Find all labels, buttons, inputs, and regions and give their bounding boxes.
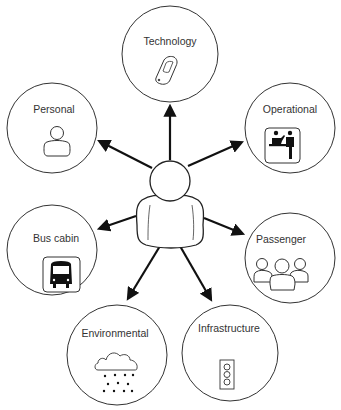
arrow-to-operational — [188, 143, 240, 166]
node-personal: Personal — [7, 83, 97, 173]
central-person-icon — [137, 161, 204, 248]
ticket-counter-icon — [265, 128, 300, 163]
bus-icon — [43, 257, 80, 292]
node-label: Environmental — [81, 327, 148, 339]
node-label: Personal — [33, 103, 74, 115]
node-label: Operational — [263, 103, 317, 115]
node-passenger: Passenger — [245, 213, 335, 303]
node-infrastructure: Infrastructure — [182, 305, 278, 401]
arrow-to-infrastructure — [180, 246, 210, 298]
traffic-light-icon — [220, 360, 234, 389]
diagram-canvas: Technology Personal Operational Bus — [0, 0, 341, 410]
node-label: Technology — [143, 35, 197, 47]
arrow-to-bus-cabin — [101, 216, 136, 228]
node-label: Bus cabin — [33, 232, 79, 244]
node-label: Passenger — [256, 233, 307, 245]
node-label: Infrastructure — [198, 322, 260, 334]
node-environmental: Environmental — [67, 305, 167, 405]
node-operational: Operational — [245, 83, 335, 173]
node-bus-cabin: Bus cabin — [7, 205, 97, 295]
arrow-to-passenger — [204, 218, 241, 233]
node-technology: Technology — [122, 6, 218, 102]
arrow-to-environmental — [129, 246, 160, 297]
arrow-to-personal — [101, 142, 152, 168]
